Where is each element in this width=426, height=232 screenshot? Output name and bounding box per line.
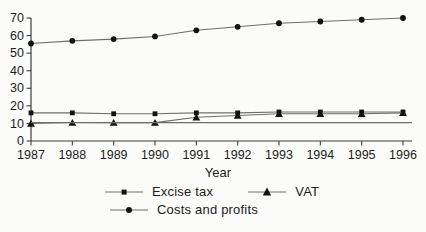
data-point-circle	[317, 19, 323, 25]
y-tick-label: 40	[10, 64, 24, 78]
y-tick-label: 10	[10, 117, 24, 131]
data-point-square	[70, 110, 75, 115]
chart-legend: Excise tax VAT Costs and profits	[104, 184, 404, 217]
data-point-square	[153, 111, 158, 116]
legend-label-vat: VAT	[295, 184, 319, 199]
data-point-circle	[276, 20, 282, 26]
series-costs-and-profits	[28, 15, 406, 46]
data-point-circle	[152, 34, 158, 40]
excise-tax-legend-marker-icon	[104, 186, 144, 198]
x-tick-label: 1995	[348, 148, 376, 162]
legend-item-excise-tax: Excise tax	[104, 184, 213, 199]
x-tick-label: 1996	[389, 148, 417, 162]
y-tick-label: 0	[17, 134, 24, 148]
y-tick-label: 20	[10, 99, 24, 113]
legend-row-2: Costs and profits	[109, 202, 404, 217]
data-point-circle	[193, 27, 199, 33]
data-point-circle	[69, 38, 75, 44]
legend-item-costs-and-profits: Costs and profits	[109, 202, 258, 217]
data-point-circle	[28, 41, 34, 47]
legend-item-vat: VAT	[247, 184, 319, 199]
data-point-circle	[111, 36, 117, 42]
data-point-circle	[235, 24, 241, 30]
data-point-circle	[400, 15, 406, 21]
y-axis-ticks: 010203040506070	[10, 11, 31, 148]
x-tick-label: 1989	[100, 148, 128, 162]
costs-and-profits-legend-marker-icon	[109, 204, 149, 216]
chart-figure: 0102030405060701987198819891990199119921…	[0, 0, 426, 232]
data-point-circle	[359, 17, 365, 23]
x-tick-label: 1987	[17, 148, 45, 162]
series-excise-tax	[29, 110, 406, 117]
x-tick-label: 1988	[58, 148, 86, 162]
data-point-square	[111, 111, 116, 116]
legend-row-1: Excise tax VAT	[104, 184, 404, 199]
x-tick-label: 1990	[141, 148, 169, 162]
x-axis-ticks: 1987198819891990199119921993199419951996	[17, 141, 417, 162]
x-tick-label: 1992	[224, 148, 252, 162]
legend-label-costs-and-profits: Costs and profits	[157, 202, 258, 217]
x-tick-label: 1993	[265, 148, 293, 162]
x-axis-title: Year	[205, 165, 232, 180]
x-tick-label: 1994	[306, 148, 334, 162]
vat-legend-marker-icon	[247, 186, 287, 198]
y-tick-label: 30	[10, 81, 24, 95]
x-tick-label: 1991	[182, 148, 210, 162]
y-tick-label: 70	[10, 11, 24, 25]
y-tick-label: 50	[10, 46, 24, 60]
y-tick-label: 60	[10, 29, 24, 43]
data-point-square	[29, 110, 34, 115]
legend-label-excise-tax: Excise tax	[152, 184, 213, 199]
